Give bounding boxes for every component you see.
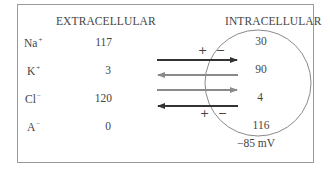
intracellular-value-cl: 4 xyxy=(245,91,275,103)
membrane-diagram xyxy=(0,0,330,169)
intracellular-value-na: 30 xyxy=(246,35,276,47)
membrane-bottom-minus: − xyxy=(218,107,227,120)
membrane-top-minus: − xyxy=(216,44,225,57)
intracellular-value-a: 116 xyxy=(246,119,276,131)
membrane-bottom-plus: + xyxy=(200,107,209,120)
intracellular-value-k: 90 xyxy=(246,63,276,75)
membrane-potential: −85 mV xyxy=(237,137,275,149)
membrane-top-plus: + xyxy=(198,44,207,57)
